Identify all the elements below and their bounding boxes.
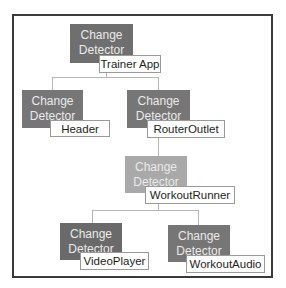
component-label-header: Header <box>50 120 110 137</box>
connector-to-router-outlet <box>158 77 159 90</box>
detector-label-line1: Change <box>60 227 122 242</box>
diagram-frame <box>12 14 273 278</box>
connector-level1-horizontal <box>52 77 159 78</box>
detector-label-line1: Change <box>168 229 230 244</box>
detector-label-line1: Change <box>127 94 190 109</box>
connector-router-to-runner <box>158 137 159 156</box>
component-label-trainer-app: Trainer App <box>99 55 161 73</box>
connector-to-header <box>52 77 53 90</box>
connector-level3-horizontal <box>92 210 199 211</box>
component-label-workout-audio: WorkoutAudio <box>186 255 265 273</box>
detector-label-line1: Change <box>22 94 83 109</box>
component-label-workout-runner: WorkoutRunner <box>145 186 235 204</box>
component-label-video-player: VideoPlayer <box>80 252 149 270</box>
detector-label-line1: Change <box>125 160 187 175</box>
connector-to-workout-audio <box>198 210 199 225</box>
connector-to-video-player <box>92 210 93 223</box>
detector-label-line1: Change <box>70 28 133 43</box>
component-label-router-outlet: RouterOutlet <box>147 120 225 138</box>
